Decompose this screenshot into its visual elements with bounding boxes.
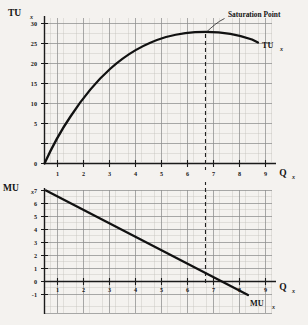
mu-xtick-5: 5 <box>160 286 163 293</box>
mu-y-axis-title-main: MU <box>3 183 19 193</box>
mu-ytick-4: 4 <box>34 226 37 233</box>
tu-ytick-0: 0 <box>34 160 37 167</box>
saturation-leader-line <box>207 19 225 32</box>
tu-xtick-5: 5 <box>160 170 163 177</box>
tu-y-axis-title-main: TU <box>8 8 21 18</box>
tu-x-axis-title-sub: x <box>291 174 295 180</box>
figure-canvas: 30 25 20 15 10 5 0 1 2 3 4 5 6 7 8 9 TU … <box>0 0 308 325</box>
mu-ytick-3: 3 <box>34 239 37 246</box>
tu-ytick-30: 30 <box>31 20 37 27</box>
tu-ytick-5: 5 <box>34 120 37 127</box>
tu-y-axis-title: TU x <box>8 8 33 20</box>
mu-y-axis-title: MU x <box>3 183 34 195</box>
mu-curve-label: MU x <box>250 299 275 310</box>
mu-ytick-0: 0 <box>34 278 37 285</box>
tu-x-axis-title: Q x <box>279 168 295 180</box>
tu-ytick-15: 15 <box>31 80 37 87</box>
tu-xtick-8: 8 <box>238 170 241 177</box>
tu-xtick-1: 1 <box>56 170 59 177</box>
marginal-utility-chart: 7 6 5 4 3 2 1 0 -1 1 2 3 4 5 6 7 8 9 MU … <box>0 182 308 325</box>
tu-xtick-9: 9 <box>264 170 267 177</box>
tu-y-axis-title-sub: x <box>29 14 33 20</box>
tu-xtick-7: 7 <box>212 170 215 177</box>
mu-ytick-5: 5 <box>34 213 37 220</box>
mu-major-grid-horizontal <box>44 191 272 314</box>
tu-xtick-2: 2 <box>82 170 85 177</box>
mu-xtick-1: 1 <box>56 286 59 293</box>
tu-ytick-10: 10 <box>31 100 37 107</box>
mu-xtick-7: 7 <box>212 286 215 293</box>
mu-x-axis-title-main: Q <box>279 282 286 292</box>
mu-y-axis-title-sub: x <box>30 189 34 195</box>
tu-x-axis-title-main: Q <box>279 168 286 178</box>
mu-ytick-7: 7 <box>34 187 37 194</box>
mu-xtick-6: 6 <box>186 286 189 293</box>
mu-xtick-3: 3 <box>108 286 111 293</box>
mu-xtick-9: 9 <box>264 286 267 293</box>
tu-xtick-3: 3 <box>108 170 111 177</box>
mu-x-axis-title-sub: x <box>291 288 295 294</box>
mu-ytick-minus1: -1 <box>32 291 37 298</box>
mu-x-axis-title: Q x <box>279 282 295 294</box>
tu-xtick-6: 6 <box>186 170 189 177</box>
total-utility-chart: 30 25 20 15 10 5 0 1 2 3 4 5 6 7 8 9 TU … <box>0 0 308 182</box>
tu-svg: 30 25 20 15 10 5 0 1 2 3 4 5 6 7 8 9 TU … <box>0 0 308 182</box>
mu-ytick-6: 6 <box>34 200 37 207</box>
tu-curve-label-sub: x <box>279 46 283 52</box>
mu-curve-label-sub: x <box>271 304 275 310</box>
tu-ytick-20: 20 <box>31 60 37 67</box>
mu-ytick-1: 1 <box>34 265 37 272</box>
tu-minor-grid-horizontal <box>44 34 272 154</box>
tu-ytick-25: 25 <box>31 40 37 47</box>
mu-xtick-2: 2 <box>82 286 85 293</box>
mu-xtick-4: 4 <box>134 286 137 293</box>
mu-curve-label-main: MU <box>250 299 264 308</box>
tu-major-grid-horizontal <box>44 24 272 144</box>
tu-xtick-4: 4 <box>134 170 137 177</box>
tu-curve-label-main: TU <box>262 41 273 50</box>
mu-ytick-2: 2 <box>34 252 37 259</box>
saturation-point-label: Saturation Point <box>228 10 281 19</box>
mu-svg: 7 6 5 4 3 2 1 0 -1 1 2 3 4 5 6 7 8 9 MU … <box>0 182 308 325</box>
